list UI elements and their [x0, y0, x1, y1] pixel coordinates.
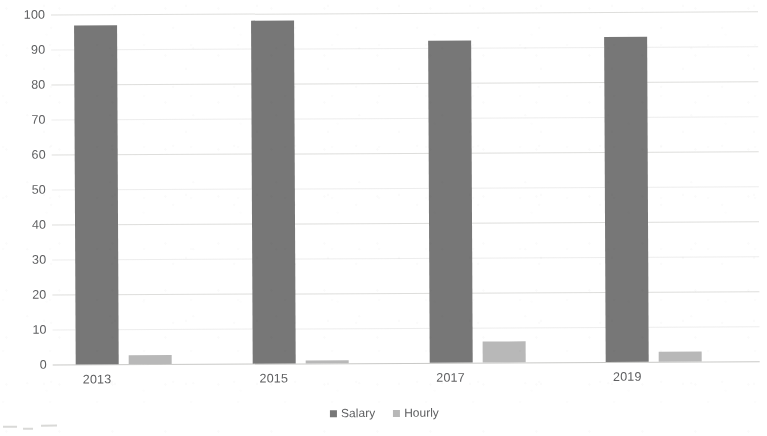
- x-axis: 2013 2015 2017 2019: [53, 368, 760, 391]
- bar-group-2013: [51, 1, 230, 365]
- legend-item-hourly[interactable]: Hourly: [393, 406, 439, 420]
- bar-hourly-2017[interactable]: [482, 341, 525, 362]
- legend-label: Salary: [341, 406, 375, 420]
- legend-item-salary[interactable]: Salary: [330, 406, 375, 420]
- legend-swatch-icon: [330, 410, 337, 417]
- bar-hourly-2019[interactable]: [659, 351, 702, 362]
- y-axis-tick-label: 90: [1, 44, 45, 56]
- bar-chart: 100 90 80 70 60 50 40 30 20 10 0: [0, 0, 767, 436]
- x-axis-tick-label: 2017: [406, 369, 583, 390]
- bar-salary-2017[interactable]: [428, 41, 473, 363]
- y-axis: 100 90 80 70 60 50 40 30 20 10 0: [0, 2, 47, 382]
- bar-group-2017: [404, 0, 583, 363]
- y-axis-tick-label: 60: [2, 149, 46, 161]
- scan-edge-artifact: [41, 425, 57, 427]
- bar-salary-2015[interactable]: [251, 20, 296, 363]
- y-axis-tick-label: 70: [1, 114, 45, 126]
- bar-group-2019: [581, 0, 760, 362]
- bar-hourly-2015[interactable]: [305, 360, 348, 364]
- x-axis-tick-label: 2019: [583, 368, 760, 389]
- scan-edge-artifact: [23, 428, 33, 430]
- scanned-chart-page: 100 90 80 70 60 50 40 30 20 10 0: [0, 0, 767, 436]
- x-axis-tick-label: 2015: [229, 370, 406, 391]
- bar-salary-2013[interactable]: [74, 25, 119, 365]
- legend-label: Hourly: [404, 406, 439, 420]
- chart-legend: Salary Hourly: [1, 402, 767, 424]
- bar-groups: [51, 0, 760, 365]
- plot-area: [51, 0, 760, 382]
- y-axis-tick-label: 0: [3, 359, 47, 371]
- bar-hourly-2013[interactable]: [129, 355, 172, 364]
- y-axis-tick-label: 100: [1, 9, 45, 21]
- y-axis-tick-label: 20: [2, 289, 46, 301]
- x-axis-tick-label: 2013: [53, 371, 230, 392]
- y-axis-tick-label: 30: [2, 254, 46, 266]
- y-axis-tick-label: 50: [2, 184, 46, 196]
- bar-group-2015: [228, 0, 407, 364]
- y-axis-tick-label: 10: [3, 324, 47, 336]
- legend-swatch-icon: [393, 409, 400, 416]
- bar-salary-2019[interactable]: [604, 36, 649, 362]
- y-axis-tick-label: 40: [2, 219, 46, 231]
- y-axis-tick-label: 80: [1, 79, 45, 91]
- scan-edge-artifact: [3, 426, 17, 428]
